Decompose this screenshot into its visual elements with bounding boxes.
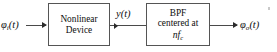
arrowhead-input-icon: [42, 22, 47, 28]
block-nonlinear-device: Nonlinear Device: [48, 3, 110, 46]
input-signal-label: φi(t): [1, 20, 19, 32]
output-signal-label: φo(t): [240, 20, 259, 32]
input-signal-argument: (t): [9, 19, 19, 30]
block-nonlinear-device-line1: Nonlinear: [60, 14, 97, 24]
arrowhead-output-icon: [233, 22, 238, 28]
block-nonlinear-device-line2: Device: [66, 25, 92, 35]
intermediate-signal-argument: (t): [121, 8, 131, 19]
output-signal-argument: (t): [249, 19, 259, 30]
block-bandpass-filter-line2: centered at: [158, 18, 199, 28]
intermediate-signal-label: y(t): [116, 9, 131, 20]
block-bandpass-filter-line3: nfc: [173, 30, 183, 41]
block-bandpass-filter: BPF centered at nfc: [146, 3, 210, 46]
arrowhead-intermediate-icon: [114, 23, 118, 29]
scan-artifact: [268, 7, 270, 10]
block-bandpass-filter-frequency-subscript: c: [180, 34, 183, 41]
block-bandpass-filter-line1: BPF: [170, 8, 187, 18]
block-diagram: φi(t) Nonlinear Device y(t) BPF centered…: [0, 0, 277, 52]
